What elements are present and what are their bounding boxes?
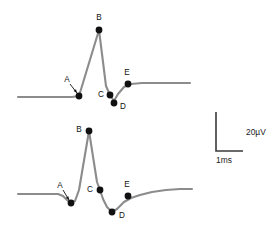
waveform-top-trace (18, 30, 190, 101)
waveform-bottom-trace (18, 131, 192, 212)
waveform-bottom-group: ABCDE (18, 125, 192, 220)
waveform-top-label-d: D (120, 102, 126, 111)
waveform-bottom-label-c: C (87, 185, 93, 194)
waveform-bottom-label-d: D (119, 211, 125, 220)
waveform-bottom-marker-e[interactable] (125, 193, 132, 200)
waveform-top-marker-c[interactable] (107, 92, 114, 99)
waveform-top-label-a: A (64, 75, 70, 84)
waveform-top-label-c: C (98, 90, 104, 99)
waveform-top-marker-b[interactable] (96, 27, 103, 34)
waveform-top-marker-e[interactable] (125, 81, 132, 88)
waveform-bottom-label-a: A (57, 181, 63, 190)
waveform-bottom-label-b: B (76, 125, 82, 134)
waveform-bottom-label-e: E (124, 180, 130, 189)
calibration-scale-bar: 20µV1ms (216, 112, 266, 165)
waveform-bottom-marker-b[interactable] (86, 128, 93, 135)
waveform-top-label-e: E (124, 68, 130, 77)
waveform-bottom-marker-a[interactable] (68, 200, 75, 207)
waveform-top-label-b: B (96, 13, 102, 22)
waveform-bottom-marker-d[interactable] (109, 209, 116, 216)
waveform-top-marker-a[interactable] (76, 93, 83, 100)
waveform-top-marker-d[interactable] (111, 100, 118, 107)
waveform-figure: ABCDEABCDE20µV1ms (0, 0, 279, 243)
waveform-top-group: ABCDE (18, 13, 190, 111)
waveform-bottom-marker-c[interactable] (97, 187, 104, 194)
plot-canvas: ABCDEABCDE20µV1ms (0, 0, 279, 243)
scale-bar-horizontal-label: 1ms (216, 155, 232, 165)
scale-bar-lines (216, 112, 243, 151)
scale-bar-vertical-label: 20µV (246, 127, 266, 137)
